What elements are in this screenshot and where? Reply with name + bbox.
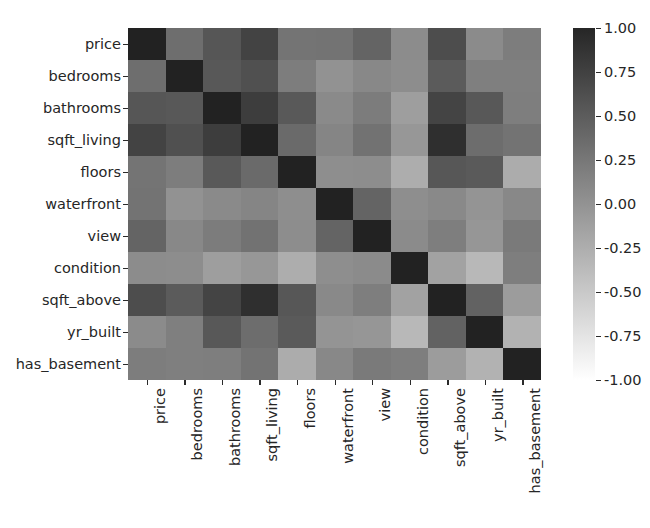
heatmap-cell	[391, 156, 429, 188]
heatmap-cell	[428, 92, 466, 124]
colorbar-tick-mark	[596, 380, 601, 381]
heatmap-cell	[353, 92, 391, 124]
heatmap-cell	[503, 60, 541, 92]
heatmap-cell	[503, 124, 541, 156]
heatmap-cell	[128, 316, 166, 348]
heatmap-cell	[278, 316, 316, 348]
heatmap-cell	[241, 28, 279, 60]
heatmap-cell	[241, 188, 279, 220]
y-tick-label-yr-built: yr_built	[0, 325, 121, 340]
colorbar-tick-label: -0.50	[604, 285, 642, 300]
heatmap-cell	[353, 348, 391, 380]
heatmap-cell	[316, 284, 354, 316]
y-tick-label-sqft-living: sqft_living	[0, 133, 121, 148]
heatmap-cell	[353, 60, 391, 92]
y-tick-label-price: price	[0, 37, 121, 52]
colorbar-tick-mark	[596, 336, 601, 337]
heatmap-cell	[428, 156, 466, 188]
x-tick-mark	[522, 380, 523, 385]
heatmap-cell	[466, 156, 504, 188]
heatmap-cell	[278, 220, 316, 252]
heatmap-cell	[428, 284, 466, 316]
heatmap-cell	[128, 348, 166, 380]
heatmap-cell	[466, 92, 504, 124]
heatmap-cell	[316, 252, 354, 284]
heatmap-cell	[278, 348, 316, 380]
heatmap-cell	[316, 316, 354, 348]
y-tick-label-sqft-above: sqft_above	[0, 293, 121, 308]
heatmap-cell	[203, 156, 241, 188]
colorbar-tick-mark	[596, 292, 601, 293]
x-tick-label-sqft-living: sqft_living	[265, 388, 280, 462]
heatmap-cell	[166, 348, 204, 380]
heatmap-cell	[128, 124, 166, 156]
heatmap-cell	[353, 28, 391, 60]
x-tick-label-sqft-above: sqft_above	[453, 388, 468, 467]
x-tick-mark	[410, 380, 411, 385]
heatmap-cell	[391, 188, 429, 220]
heatmap-cell	[353, 124, 391, 156]
heatmap-cell	[128, 188, 166, 220]
heatmap-cell	[241, 156, 279, 188]
heatmap-cell	[278, 284, 316, 316]
heatmap-cell	[353, 284, 391, 316]
x-tick-mark	[447, 380, 448, 385]
heatmap-cell	[166, 284, 204, 316]
heatmap-cell	[316, 220, 354, 252]
heatmap-cell	[278, 188, 316, 220]
heatmap-cell	[503, 220, 541, 252]
heatmap-cell	[241, 284, 279, 316]
x-tick-mark	[485, 380, 486, 385]
heatmap-cell	[428, 28, 466, 60]
heatmap-cell	[466, 124, 504, 156]
heatmap-cell	[203, 348, 241, 380]
y-tick-label-floors: floors	[0, 165, 121, 180]
heatmap-cell	[241, 316, 279, 348]
heatmap-cell	[241, 252, 279, 284]
heatmap-cell	[503, 188, 541, 220]
x-tick-label-has-basement: has_basement	[528, 388, 543, 493]
x-tick-mark	[184, 380, 185, 385]
heatmap-cell	[278, 252, 316, 284]
heatmap-cell	[466, 188, 504, 220]
heatmap-cell	[353, 316, 391, 348]
heatmap-cell	[353, 220, 391, 252]
heatmap-cell	[353, 156, 391, 188]
heatmap-cell	[166, 124, 204, 156]
colorbar-tick-mark	[596, 116, 601, 117]
heatmap-cell	[503, 92, 541, 124]
x-tick-mark	[147, 380, 148, 385]
y-tick-label-bedrooms: bedrooms	[0, 69, 121, 84]
colorbar-tick-label: 0.25	[604, 153, 636, 168]
heatmap-cell	[391, 252, 429, 284]
heatmap-cell	[241, 60, 279, 92]
colorbar-tick-label: -0.75	[604, 329, 642, 344]
heatmap-cell	[203, 28, 241, 60]
colorbar-tick-mark	[596, 248, 601, 249]
heatmap-cell	[503, 348, 541, 380]
colorbar-tick-label: -0.25	[604, 241, 642, 256]
heatmap-cell	[428, 316, 466, 348]
heatmap-cell	[316, 28, 354, 60]
y-tick-label-waterfront: waterfront	[0, 197, 121, 212]
heatmap-cell	[241, 220, 279, 252]
x-tick-label-waterfront: waterfront	[341, 388, 356, 464]
heatmap-cell	[316, 124, 354, 156]
heatmap-cell	[203, 284, 241, 316]
heatmap-cell	[203, 92, 241, 124]
colorbar-tick-label: 0.50	[604, 109, 636, 124]
heatmap-cell	[166, 188, 204, 220]
x-tick-mark	[335, 380, 336, 385]
heatmap-cell	[166, 92, 204, 124]
heatmap-grid	[128, 28, 541, 380]
heatmap-cell	[353, 252, 391, 284]
x-tick-label-floors: floors	[303, 388, 318, 428]
heatmap-cell	[503, 316, 541, 348]
heatmap-cell	[353, 188, 391, 220]
heatmap-cell	[241, 92, 279, 124]
colorbar-tick-label: 0.75	[604, 65, 636, 80]
x-tick-label-bedrooms: bedrooms	[190, 388, 205, 460]
heatmap-cell	[391, 92, 429, 124]
heatmap-cell	[128, 220, 166, 252]
heatmap-cell	[466, 348, 504, 380]
